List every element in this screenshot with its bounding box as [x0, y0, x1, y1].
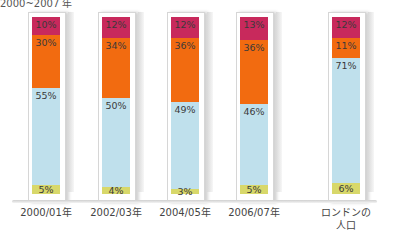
segment-top: 13% — [240, 17, 268, 40]
segment-blue: 55% — [32, 88, 60, 185]
segment-orange: 36% — [171, 38, 199, 102]
segment-bottom: 6% — [332, 183, 360, 194]
stacked-bar-chart: 10% 30% 55% 5% 12% 34% 50% 4% 12% 36% 49… — [0, 0, 396, 237]
value-label: 49% — [174, 104, 195, 115]
value-label: 71% — [335, 60, 356, 71]
segment-orange: 30% — [32, 35, 60, 88]
segment-top: 12% — [332, 17, 360, 38]
x-label-london: ロンドンの 人口 — [316, 206, 376, 232]
x-label: 2006/07年 — [224, 206, 284, 219]
value-label: 13% — [243, 19, 264, 30]
x-label: 2004/05年 — [155, 206, 215, 219]
value-label: 30% — [35, 37, 56, 48]
baseline-shadow — [12, 200, 377, 203]
value-label: 5% — [38, 184, 53, 195]
bar-2006-07: 13% 36% 46% 5% — [240, 17, 268, 194]
bar-2004-05: 12% 36% 49% 3% — [171, 17, 199, 194]
segment-bottom: 3% — [171, 189, 199, 194]
value-label: 12% — [105, 19, 126, 30]
frame-shadow — [276, 12, 282, 192]
frame-shadow — [68, 12, 74, 192]
segment-blue: 71% — [332, 58, 360, 184]
frame-shadow — [207, 12, 213, 192]
value-label: 36% — [243, 42, 264, 53]
x-label-line2: 人口 — [316, 219, 376, 232]
segment-bottom: 4% — [102, 187, 130, 194]
value-label: 4% — [108, 185, 123, 196]
value-label: 12% — [335, 19, 356, 30]
value-label: 50% — [105, 100, 126, 111]
segment-blue: 46% — [240, 104, 268, 185]
frame-shadow — [138, 12, 144, 192]
value-label: 55% — [35, 90, 56, 101]
segment-orange: 11% — [332, 38, 360, 57]
value-label: 6% — [338, 183, 353, 194]
bar-london-population: 12% 11% 71% 6% — [332, 17, 360, 194]
value-label: 5% — [246, 184, 261, 195]
segment-orange: 36% — [240, 40, 268, 104]
bar-2000-01: 10% 30% 55% 5% — [32, 17, 60, 194]
frame-shadow — [368, 12, 374, 192]
value-label: 3% — [177, 186, 192, 197]
value-label: 34% — [105, 40, 126, 51]
segment-top: 10% — [32, 17, 60, 35]
value-label: 12% — [174, 19, 195, 30]
segment-blue: 49% — [171, 102, 199, 189]
segment-bottom: 5% — [32, 185, 60, 194]
x-label: 2000/01年 — [16, 206, 76, 219]
segment-blue: 50% — [102, 98, 130, 187]
x-label-line1: ロンドンの — [316, 206, 376, 219]
value-label: 10% — [35, 19, 56, 30]
value-label: 46% — [243, 106, 264, 117]
segment-bottom: 5% — [240, 185, 268, 194]
segment-orange: 34% — [102, 38, 130, 98]
segment-top: 12% — [102, 17, 130, 38]
value-label: 36% — [174, 40, 195, 51]
x-label: 2002/03年 — [86, 206, 146, 219]
bar-2002-03: 12% 34% 50% 4% — [102, 17, 130, 194]
segment-top: 12% — [171, 17, 199, 38]
value-label: 11% — [335, 40, 356, 51]
